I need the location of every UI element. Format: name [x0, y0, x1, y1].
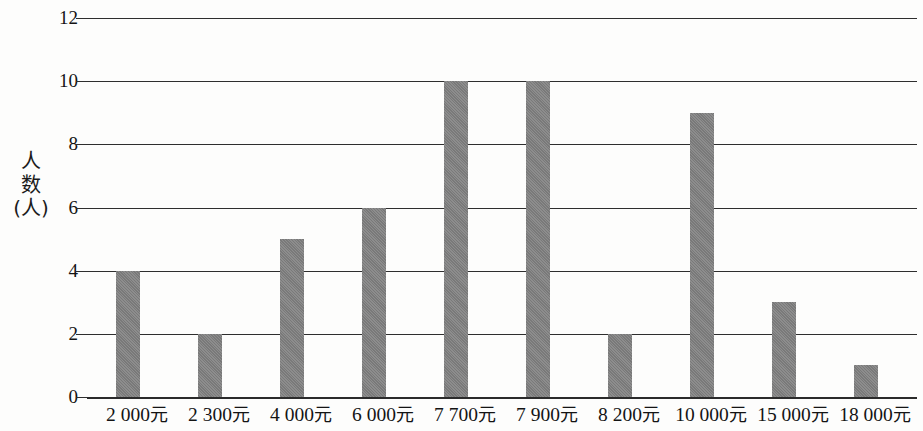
bar [690, 113, 714, 397]
y-tick-mark [76, 397, 87, 398]
x-tick-label: 6 000元 [338, 400, 428, 426]
bar [526, 81, 550, 397]
gridline [87, 208, 917, 209]
x-tick-label: 4 000元 [256, 400, 346, 426]
gridline [87, 81, 917, 82]
bar [362, 208, 386, 398]
plot-area [87, 0, 917, 431]
y-tick-mark [76, 144, 87, 145]
x-tick-label: 18 000元 [830, 400, 920, 426]
bar [444, 81, 468, 397]
y-tick-mark [76, 81, 87, 82]
y-tick-label: 12 [40, 7, 78, 29]
x-axis-tick-labels: 2 000元2 300元4 000元6 000元7 700元7 900元8 20… [87, 400, 917, 431]
bar [116, 271, 140, 397]
x-tick-label: 2 300元 [174, 400, 264, 426]
y-tick-label: 6 [40, 197, 78, 219]
x-tick-label: 15 000元 [748, 400, 838, 426]
x-tick-label: 8 200元 [584, 400, 674, 426]
x-tick-label: 7 700元 [420, 400, 510, 426]
y-tick-label: 10 [40, 70, 78, 92]
bar [854, 365, 878, 397]
bar [198, 334, 222, 397]
gridline [87, 271, 917, 272]
gridline [87, 18, 917, 19]
y-tick-mark [76, 334, 87, 335]
y-tick-label: 4 [40, 260, 78, 282]
bar [608, 334, 632, 397]
y-tick-label: 8 [40, 133, 78, 155]
x-tick-label: 2 000元 [92, 400, 182, 426]
x-tick-label: 10 000元 [666, 400, 756, 426]
bar [280, 239, 304, 397]
y-tick-mark [76, 208, 87, 209]
y-tick-label: 2 [40, 323, 78, 345]
x-tick-label: 7 900元 [502, 400, 592, 426]
bar [772, 302, 796, 397]
y-tick-mark [76, 18, 87, 19]
y-tick-mark [76, 271, 87, 272]
y-axis-tick-labels: 024681012 [20, 0, 78, 431]
chart-canvas: 人 数 (人) 024681012 2 000元2 300元4 000元6 00… [0, 0, 923, 431]
gridline [87, 144, 917, 145]
x-axis-line [87, 397, 917, 399]
y-tick-label: 0 [40, 386, 78, 408]
